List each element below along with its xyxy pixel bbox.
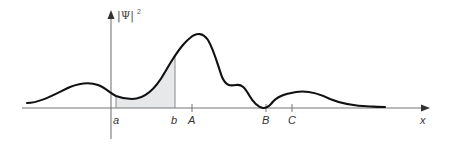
label-B: B (262, 114, 269, 126)
y-axis-label: |Ψ| (117, 9, 134, 23)
x-axis-label: x (419, 114, 426, 126)
y-axis-arrow-icon (108, 10, 115, 19)
x-axis-arrow-icon (421, 105, 430, 112)
shaded-region-a-b (116, 56, 175, 108)
y-axis-label-exponent: 2 (137, 8, 141, 15)
label-b: b (171, 114, 177, 126)
probability-density-diagram: |Ψ| 2 a b A B C x (0, 0, 449, 145)
label-A: A (187, 114, 195, 126)
label-a: a (113, 114, 119, 126)
probability-density-curve (27, 34, 385, 108)
label-C: C (288, 114, 296, 126)
